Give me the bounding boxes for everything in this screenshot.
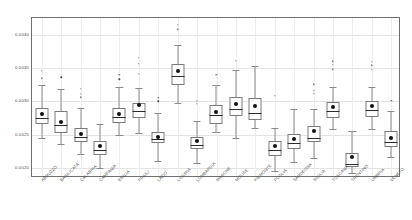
outlier-point xyxy=(216,74,217,75)
whisker-cap xyxy=(388,111,395,112)
box-rect xyxy=(171,64,184,85)
whisker-cap xyxy=(38,85,45,86)
median-line xyxy=(171,76,184,77)
median-line xyxy=(249,113,262,114)
y-axis-tick-label: 0.0040 xyxy=(15,31,29,36)
outlier-point xyxy=(119,79,120,80)
box-plot-basilicata[interactable] xyxy=(51,18,70,176)
mean-marker xyxy=(40,112,44,116)
whisker-cap xyxy=(349,131,356,132)
outlier-point xyxy=(235,60,236,61)
median-line xyxy=(268,150,281,151)
median-line xyxy=(35,118,48,119)
box-plot-trentino[interactable] xyxy=(343,18,362,176)
outlier-point xyxy=(177,29,178,30)
mean-marker xyxy=(292,137,296,141)
mean-marker xyxy=(234,102,238,106)
whisker-cap xyxy=(388,157,395,158)
y-axis-tick-label: 0.0035 xyxy=(15,65,29,70)
outlier-point xyxy=(60,77,61,78)
whisker-cap xyxy=(135,133,142,134)
box-plot-veneto[interactable] xyxy=(382,18,401,176)
mean-marker xyxy=(370,104,374,108)
mean-marker xyxy=(117,112,121,116)
box-plot-sicilia[interactable] xyxy=(304,18,323,176)
median-line xyxy=(113,117,126,118)
box-plot-calabria[interactable] xyxy=(71,18,90,176)
box-plot-lombardia[interactable] xyxy=(187,18,206,176)
mean-marker xyxy=(389,136,393,140)
outlier-point xyxy=(41,70,42,71)
box-plot-piemonte[interactable] xyxy=(246,18,265,176)
box-plot-umbria[interactable] xyxy=(362,18,381,176)
mean-marker xyxy=(176,69,180,73)
outlier-point xyxy=(177,24,178,25)
box-plot-puglia[interactable] xyxy=(265,18,284,176)
box-plot-marche[interactable] xyxy=(207,18,226,176)
mean-marker xyxy=(273,144,277,148)
whisker-cap xyxy=(368,87,375,88)
median-line xyxy=(152,139,165,140)
outlier-point xyxy=(391,100,392,101)
outlier-point xyxy=(313,93,314,94)
box-rect xyxy=(229,97,242,116)
box-plot-abruzzo[interactable] xyxy=(32,18,51,176)
outlier-point xyxy=(313,90,314,91)
whisker-cap xyxy=(116,87,123,88)
boxplot-chart-root: 0.00400.00350.00300.00250.0020 ABRUZZOBA… xyxy=(0,0,412,220)
whisker-cap xyxy=(155,161,162,162)
median-line xyxy=(210,115,223,116)
box-plot-campania[interactable] xyxy=(90,18,109,176)
mean-marker xyxy=(312,129,316,133)
box-plot-sardegna[interactable] xyxy=(284,18,303,176)
whisker-cap xyxy=(193,163,200,164)
box-plot-lazio[interactable] xyxy=(149,18,168,176)
median-line xyxy=(191,145,204,146)
y-axis-tick-label: 0.0020 xyxy=(15,165,29,170)
median-line xyxy=(74,137,87,138)
whisker-cap xyxy=(96,168,103,169)
box-rect xyxy=(249,98,262,120)
median-line xyxy=(365,110,378,111)
outlier-point xyxy=(138,63,139,64)
y-axis: 0.00400.00350.00300.00250.0020 xyxy=(0,17,29,177)
whisker-cap xyxy=(96,124,103,125)
whisker-cap xyxy=(135,88,142,89)
median-line xyxy=(288,143,301,144)
whisker-cap xyxy=(174,103,181,104)
whisker-cap xyxy=(291,109,298,110)
whisker-cap xyxy=(116,135,123,136)
whisker-cap xyxy=(193,121,200,122)
outlier-point xyxy=(274,95,275,96)
mean-marker xyxy=(195,139,199,143)
outlier-point xyxy=(371,65,372,66)
box-rect xyxy=(210,105,223,124)
box-plot-molise[interactable] xyxy=(226,18,245,176)
median-line xyxy=(55,125,68,126)
box-plot-toscana[interactable] xyxy=(323,18,342,176)
mean-marker xyxy=(350,155,354,159)
median-line xyxy=(327,111,340,112)
median-line xyxy=(229,109,242,110)
outlier-point xyxy=(371,61,372,62)
whisker-cap xyxy=(58,89,65,90)
box-plot-liguria[interactable] xyxy=(168,18,187,176)
box-plot-friuli[interactable] xyxy=(129,18,148,176)
whisker-cap xyxy=(310,158,317,159)
mean-marker xyxy=(331,105,335,109)
whisker-cap xyxy=(155,113,162,114)
box-plot-emilia[interactable] xyxy=(110,18,129,176)
outlier-point xyxy=(80,97,81,98)
mean-marker xyxy=(137,103,141,107)
y-axis-tick-label: 0.0030 xyxy=(15,98,29,103)
outlier-point xyxy=(371,69,372,70)
plot-area xyxy=(31,17,400,177)
mean-marker xyxy=(156,135,160,139)
whisker-cap xyxy=(271,171,278,172)
whisker-cap xyxy=(232,70,239,71)
whisker-cap xyxy=(232,138,239,139)
median-line xyxy=(132,111,145,112)
whisker-cap xyxy=(58,144,65,145)
outlier-point xyxy=(138,57,139,58)
outlier-point xyxy=(332,61,333,62)
